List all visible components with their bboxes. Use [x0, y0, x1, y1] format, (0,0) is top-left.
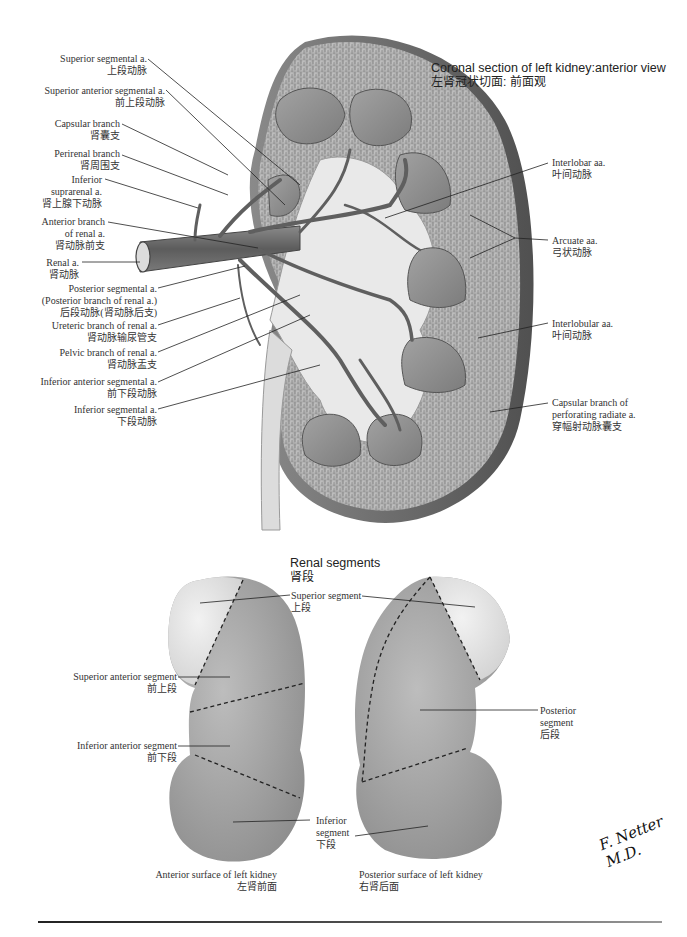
posterior-surface-kidney	[355, 577, 510, 859]
label-pelvic-branch: Pelvic branch of renal a. 肾动脉盂支	[60, 347, 157, 371]
anterior-surface-kidney	[168, 576, 305, 861]
label-interlobular-aa: Interlobular aa. 叶间动脉	[552, 318, 613, 342]
renal-segments-title-en: Renal segments	[290, 556, 380, 570]
label-superior-segmental-a: Superior segmental a. 上段动脉	[60, 53, 147, 77]
label-perirenal-branch: Perirenal branch 肾周围支	[54, 148, 120, 172]
label-inferior-anterior-segment: Inferior anterior segment 前下段	[77, 740, 177, 764]
label-ureteric-branch: Ureteric branch of renal a. 肾动脉输尿管支	[52, 320, 157, 344]
label-capsular-branch: Capsular branch 肾囊支	[55, 118, 120, 142]
label-posterior-segment: Posterior segment 后段	[540, 705, 576, 741]
label-inferior-anterior-segmental-a: Inferior anterior segmental a. 前下段动脉	[40, 376, 157, 400]
label-interlobar-aa: Interlobar aa. 叶间动脉	[552, 157, 605, 181]
label-renal-a: Renal a. 肾动脉	[46, 257, 79, 281]
label-superior-segment: Superior segment 上段	[291, 590, 361, 614]
label-superior-anterior-segment: Superior anterior segment 前上段	[73, 671, 177, 695]
coronal-section-title: Coronal section of left kidney:anterior …	[431, 61, 666, 89]
renal-segments-title: Renal segments 肾段	[290, 556, 380, 584]
caption-posterior-surface: Posterior surface of left kidney 右肾后面	[359, 869, 483, 893]
label-arcuate-aa: Arcuate aa. 弓状动脉	[552, 235, 598, 259]
label-superior-anterior-segmental-a: Superior anterior segmental a. 前上段动脉	[44, 85, 165, 109]
renal-segments-title-zh: 肾段	[290, 570, 380, 584]
label-capsular-branch-perforating: Capsular branch of perforating radiate a…	[552, 397, 636, 433]
label-inferior-segmental-a: Inferior segmental a. 下段动脉	[74, 404, 157, 428]
caption-anterior-surface: Anterior surface of left kidney 左肾前面	[155, 869, 277, 893]
label-posterior-segmental-a: Posterior segmental a. (Posterior branch…	[42, 283, 157, 319]
label-inferior-segment: Inferior segment 下段	[316, 815, 349, 851]
coronal-section-kidney	[136, 35, 534, 530]
bottom-rule	[38, 921, 662, 923]
label-anterior-branch-renal-a: Anterior branch of renal a. 肾动脉前支	[41, 216, 105, 252]
coronal-section-title-en: Coronal section of left kidney:anterior …	[431, 61, 666, 75]
coronal-section-title-zh: 左肾冠状切面: 前面观	[431, 75, 666, 89]
label-inferior-suprarenal-a: Inferior suprarenal a. 肾上腺下动脉	[42, 174, 102, 210]
